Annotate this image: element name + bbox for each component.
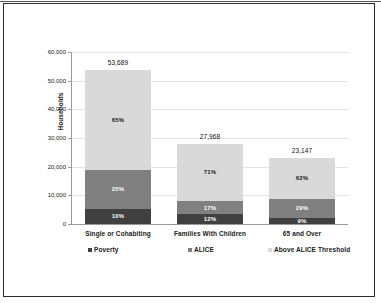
bar-stack: 62%29%9%: [269, 158, 335, 224]
legend-label: Above ALICE Threshold: [274, 246, 350, 253]
stacked-bar-chart: Households 010,00020,00030,00040,00050,0…: [32, 16, 372, 284]
cropped-header-text: [60, 0, 220, 5]
bar-group[interactable]: 65%25%10%: [85, 70, 151, 224]
legend-color-swatch: [188, 248, 192, 252]
bar-segment-percent-label: 9%: [298, 218, 307, 224]
bar-segment[interactable]: 25%: [85, 170, 151, 208]
y-axis-tick: [68, 224, 72, 225]
legend-item[interactable]: Poverty: [88, 246, 119, 253]
bar-segment[interactable]: 10%: [85, 209, 151, 224]
document-page-frame: Households 010,00020,00030,00040,00050,0…: [3, 3, 375, 297]
bar-segment-percent-label: 29%: [296, 205, 308, 211]
legend-item[interactable]: ALICE: [188, 246, 214, 253]
bar-segment[interactable]: 71%: [177, 144, 243, 201]
y-axis-tick-label: 30,000: [48, 135, 66, 141]
gridline: [72, 52, 348, 53]
bar-segment-percent-label: 62%: [296, 175, 308, 181]
legend-color-swatch: [88, 248, 92, 252]
bar-segment[interactable]: 12%: [177, 214, 243, 224]
bar-segment-percent-label: 12%: [204, 216, 216, 222]
bar-stack: 65%25%10%: [85, 70, 151, 224]
y-axis-tick-label: 0: [63, 221, 66, 227]
bar-group[interactable]: 62%29%9%: [269, 158, 335, 224]
y-axis-tick: [68, 167, 72, 168]
gridline: [72, 224, 348, 225]
y-axis-tick: [68, 138, 72, 139]
x-axis-category-label: 65 and Over: [256, 230, 348, 237]
bar-segment-percent-label: 17%: [204, 205, 216, 211]
y-axis-tick: [68, 52, 72, 53]
y-axis-tick: [68, 195, 72, 196]
bar-segment[interactable]: 65%: [85, 70, 151, 170]
y-axis-tick-label: 50,000: [48, 78, 66, 84]
x-axis-category-label: Families With Children: [164, 230, 256, 237]
plot-area: 010,00020,00030,00040,00050,00060,000 65…: [72, 52, 348, 224]
bar-segment-percent-label: 10%: [112, 213, 124, 219]
bar-segment-percent-label: 25%: [112, 186, 124, 192]
legend-item[interactable]: Above ALICE Threshold: [268, 246, 350, 253]
bar-total-label: 53,689: [85, 59, 151, 66]
bar-segment[interactable]: 9%: [269, 218, 335, 224]
bar-total-label: 23,147: [269, 147, 335, 154]
chart-legend: PovertyALICEAbove ALICE Threshold: [72, 246, 348, 258]
bar-segment-percent-label: 65%: [112, 117, 124, 123]
bar-segment[interactable]: 62%: [269, 158, 335, 199]
bar-segment[interactable]: 29%: [269, 199, 335, 218]
legend-color-swatch: [268, 248, 272, 252]
bar-segment[interactable]: 17%: [177, 201, 243, 215]
bar-group[interactable]: 71%17%12%: [177, 144, 243, 224]
bar-segment-percent-label: 71%: [204, 169, 216, 175]
bar-total-label: 27,968: [177, 133, 243, 140]
y-axis-tick-label: 40,000: [48, 106, 66, 112]
y-axis-tick: [68, 109, 72, 110]
y-axis-tick-label: 10,000: [48, 192, 66, 198]
y-axis-tick: [68, 81, 72, 82]
legend-label: Poverty: [94, 246, 119, 253]
y-axis-tick-label: 20,000: [48, 164, 66, 170]
x-axis-category-label: Single or Cohabiting: [72, 230, 164, 237]
legend-label: ALICE: [194, 246, 214, 253]
bar-stack: 71%17%12%: [177, 144, 243, 224]
y-axis-tick-label: 60,000: [48, 49, 66, 55]
